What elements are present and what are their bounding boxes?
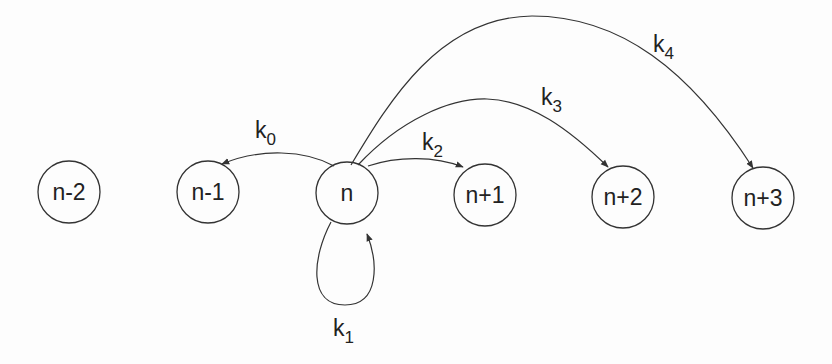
edge-label-k0: k0 xyxy=(255,117,276,149)
graph-svg: n-2 n-1 n n+1 n+2 n+3 k0 k1 k2 xyxy=(0,0,832,364)
diagram-canvas: n-2 n-1 n n+1 n+2 n+3 k0 k1 k2 xyxy=(0,0,832,364)
node-label: n+1 xyxy=(465,182,504,208)
edge-k0-arrow xyxy=(222,153,334,166)
node-label: n+2 xyxy=(603,184,642,210)
node-n: n xyxy=(316,162,378,224)
edge-k3-arrow xyxy=(358,99,608,167)
edge-label-k1: k1 xyxy=(333,315,354,347)
edge-k1-self-loop xyxy=(317,222,374,305)
node-label: n-2 xyxy=(52,179,85,205)
node-n-minus-1: n-1 xyxy=(177,161,239,223)
node-n-plus-3: n+3 xyxy=(732,167,794,229)
node-n-plus-2: n+2 xyxy=(592,166,654,228)
edge-k2-arrow xyxy=(368,159,463,167)
node-n-plus-1: n+1 xyxy=(454,164,516,226)
node-n-minus-2: n-2 xyxy=(38,161,100,223)
edge-label-k3: k3 xyxy=(541,84,562,116)
node-label: n-1 xyxy=(191,179,224,205)
node-label: n xyxy=(341,180,354,206)
edge-label-k2: k2 xyxy=(422,129,443,161)
node-label: n+3 xyxy=(743,185,782,211)
